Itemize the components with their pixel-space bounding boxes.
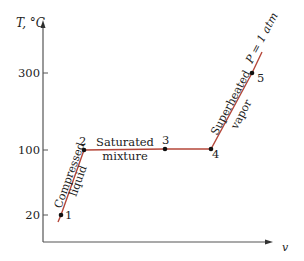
axes (41, 20, 274, 245)
x-axis-arrow-icon (265, 240, 273, 245)
tick-label-20: 20 (25, 208, 40, 222)
tick-label-300: 300 (18, 66, 40, 80)
point-label-3: 3 (162, 133, 169, 147)
y-axis-label: T, °C (16, 16, 45, 30)
point-label-5: 5 (257, 71, 264, 85)
state-point-3 (163, 147, 168, 152)
region-label-saturated: Saturated (96, 135, 155, 149)
t-v-diagram: T, °C v 300 100 20 1 2 3 4 5 Compressed … (0, 0, 304, 261)
point-label-4: 4 (212, 147, 219, 161)
pressure-curve (58, 52, 262, 222)
state-point-1 (59, 213, 64, 218)
x-axis-label: v (282, 241, 289, 254)
region-label-mixture: mixture (102, 149, 148, 163)
pressure-annotation: P = 1 atm (243, 10, 281, 66)
tick-label-100: 100 (18, 143, 40, 157)
state-points (59, 71, 255, 218)
point-label-1: 1 (65, 208, 72, 222)
